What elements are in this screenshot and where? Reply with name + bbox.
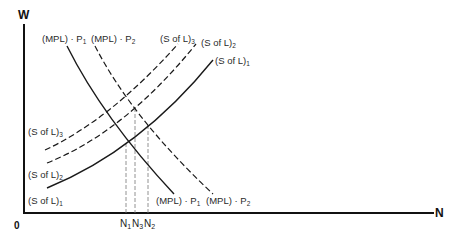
sl2-top-label: (S of L)2 xyxy=(201,38,236,50)
label-subscript: 1 xyxy=(83,38,87,45)
sl1-left-label: (S of L)1 xyxy=(28,196,63,208)
tick-subscript: 3 xyxy=(139,223,143,230)
mpl-p2-top-label: (MPL) · P2 xyxy=(91,34,135,46)
label-text: (S of L) xyxy=(215,55,246,66)
label-subscript: 3 xyxy=(191,38,195,45)
sl3-top-label: (S of L)3 xyxy=(160,34,195,46)
label-text: (MPL) · P xyxy=(91,33,132,44)
label-subscript: 1 xyxy=(246,60,250,67)
sl3-curve xyxy=(45,44,178,150)
mpl-p1-bottom-label: (MPL) · P1 xyxy=(156,196,200,208)
label-text: (S of L) xyxy=(28,126,59,137)
label-subscript: 2 xyxy=(232,42,236,49)
label-subscript: 2 xyxy=(247,200,251,207)
label-text: (MPL) · P xyxy=(42,33,83,44)
label-subscript: 1 xyxy=(197,200,201,207)
label-text: (S of L) xyxy=(28,169,59,180)
y-axis-label: W xyxy=(18,9,29,21)
label-subscript: 2 xyxy=(132,38,136,45)
label-text: (S of L) xyxy=(160,33,191,44)
sl2-left-label: (S of L)2 xyxy=(28,170,63,182)
label-text: (S of L) xyxy=(201,37,232,48)
label-subscript: 1 xyxy=(59,200,63,207)
tick-subscript: 2 xyxy=(151,223,155,230)
tick-subscript: 1 xyxy=(127,223,131,230)
origin-label: 0 xyxy=(14,221,20,231)
x-axis-label: N xyxy=(435,207,444,219)
label-text: (MPL) · P xyxy=(206,195,247,206)
x-tick-n1: N1 xyxy=(120,219,131,230)
sl3-left-label: (S of L)3 xyxy=(28,127,63,139)
label-text: (MPL) · P xyxy=(156,195,197,206)
x-tick-n3: N3 xyxy=(132,219,143,230)
sl1-top-label: (S of L)1 xyxy=(215,56,250,68)
label-subscript: 3 xyxy=(59,131,63,138)
mpl-p1-top-label: (MPL) · P1 xyxy=(42,34,86,46)
sl1-curve xyxy=(47,60,213,188)
label-text: (S of L) xyxy=(28,195,59,206)
mpl-p2-bottom-label: (MPL) · P2 xyxy=(206,196,250,208)
label-subscript: 2 xyxy=(59,174,63,181)
x-tick-n2: N2 xyxy=(144,219,155,230)
